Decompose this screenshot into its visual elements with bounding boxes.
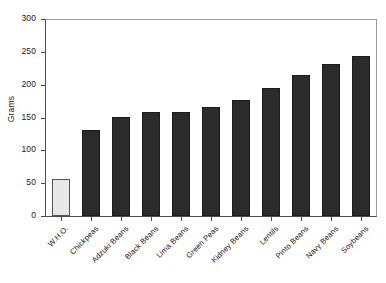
y-axis-tick-mark	[41, 19, 45, 20]
y-axis-tick-label: 200	[22, 79, 36, 89]
y-axis-tick: 250	[0, 52, 45, 53]
bar	[172, 112, 190, 216]
bar	[262, 88, 280, 216]
bar	[202, 107, 220, 216]
x-axis-tick-label: W.H.O.	[46, 224, 70, 248]
y-axis-tick: 50	[0, 183, 45, 184]
bar	[112, 117, 130, 216]
y-axis-tick-mark	[41, 183, 45, 184]
y-axis-tick: 200	[0, 85, 45, 86]
bar	[292, 75, 310, 216]
bar	[322, 64, 340, 216]
bars-container	[46, 19, 376, 216]
y-axis-title: Grams	[2, 0, 20, 217]
y-axis-tick-mark	[41, 118, 45, 119]
bar	[82, 130, 100, 216]
y-axis-tick-label: 50	[26, 177, 36, 187]
y-axis-tick: 150	[0, 118, 45, 119]
y-axis-tick-label: 100	[22, 144, 36, 154]
bar	[352, 56, 370, 216]
y-axis-tick-mark	[41, 150, 45, 151]
y-axis-tick-label: 300	[22, 13, 36, 23]
x-axis-tick-label: Soybeans	[339, 224, 370, 255]
y-axis-tick: 100	[0, 150, 45, 151]
x-axis-tick-label: Lentils	[258, 224, 281, 247]
x-axis-labels: W.H.O.ChickpeasAdzuki BeansBlack BeansLi…	[0, 217, 386, 283]
bar	[232, 100, 250, 216]
y-axis-tick-label: 150	[22, 112, 36, 122]
bar-chart: Grams 050100150200250300 W.H.O.Chickpeas…	[0, 0, 386, 283]
bar	[52, 179, 70, 216]
y-axis-tick-mark	[41, 85, 45, 86]
bar	[142, 112, 160, 216]
y-axis-tick-label: 250	[22, 46, 36, 56]
y-axis-tick: 300	[0, 19, 45, 20]
y-axis-tick-mark	[41, 52, 45, 53]
